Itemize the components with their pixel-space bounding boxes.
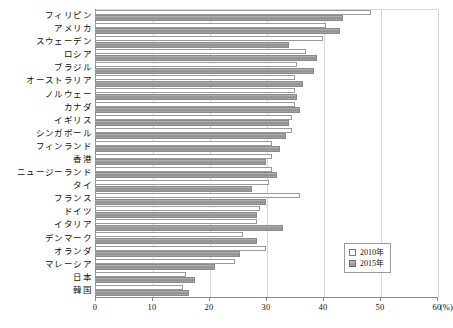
x-tick-label-0: 0	[93, 302, 97, 312]
bar-2015	[95, 133, 286, 139]
x-tick-10	[152, 297, 153, 301]
category-label: オーストラリア	[26, 76, 92, 85]
category-label: ドイツ	[64, 207, 92, 216]
bar-2015	[95, 199, 266, 205]
bar-row: スウェーデン	[0, 35, 443, 48]
bar-row: カナダ	[0, 101, 443, 114]
category-label: カナダ	[64, 103, 92, 112]
bar-2010	[95, 219, 257, 224]
bar-2015	[95, 264, 215, 270]
category-label: ロシア	[64, 50, 92, 59]
bar-row: ドイツ	[0, 205, 443, 218]
bar-2015	[95, 159, 266, 165]
bar-2010	[95, 154, 272, 159]
category-label: ノルウェー	[45, 90, 92, 99]
bar-2015	[95, 172, 277, 178]
bar-2015	[95, 277, 195, 283]
category-label: タイ	[73, 181, 92, 190]
legend-label-2010: 2010年	[360, 247, 384, 258]
category-label: ニュージーランド	[17, 168, 92, 177]
category-label: オランダ	[54, 247, 92, 256]
category-label: フィリピン	[45, 11, 92, 20]
bar-2015	[95, 146, 280, 152]
category-label: アメリカ	[54, 24, 92, 33]
bar-2015	[95, 81, 303, 87]
bar-2010	[95, 10, 371, 15]
bar-2015	[95, 290, 189, 296]
category-label: シンガポール	[36, 129, 92, 138]
bar-2010	[95, 102, 295, 107]
bar-2010	[95, 167, 272, 172]
legend-swatch-2015-icon	[349, 260, 356, 267]
x-tick-60	[437, 297, 438, 301]
bar-row: ブラジル	[0, 61, 443, 74]
bar-2015	[95, 94, 297, 100]
bar-2010	[95, 259, 235, 264]
category-label: フランス	[54, 194, 92, 203]
category-label: ブラジル	[54, 63, 92, 72]
bar-2015	[95, 107, 300, 113]
category-label: フィンランド	[36, 142, 92, 151]
bar-row: シンガポール	[0, 127, 443, 140]
bar-row: イギリス	[0, 114, 443, 127]
bar-2010	[95, 141, 272, 146]
bar-2010	[95, 193, 300, 198]
category-label: マレーシア	[45, 260, 92, 269]
bar-row: ロシア	[0, 48, 443, 61]
bar-row: 香港	[0, 153, 443, 166]
bar-2015	[95, 186, 252, 192]
bar-2010	[95, 180, 269, 185]
bar-row: イタリア	[0, 218, 443, 231]
chart-legend: 2010年 2015年	[344, 243, 391, 273]
bar-2015	[95, 251, 240, 257]
x-tick-50	[380, 297, 381, 301]
bar-2015	[95, 42, 289, 48]
category-label: イタリア	[54, 220, 92, 229]
bar-2015	[95, 68, 314, 74]
bar-2010	[95, 23, 326, 28]
bar-row: フィリピン	[0, 9, 443, 22]
category-label: デンマーク	[45, 234, 92, 243]
bar-2010	[95, 88, 295, 93]
bar-2010	[95, 62, 297, 67]
bar-2010	[95, 246, 266, 251]
x-tick-0	[95, 297, 96, 301]
x-tick-label-20: 20	[205, 302, 214, 312]
x-tick-label-50: 50	[376, 302, 385, 312]
legend-label-2015: 2015年	[360, 258, 384, 269]
bar-2015	[95, 225, 283, 231]
bar-row: ニュージーランド	[0, 166, 443, 179]
bar-2010	[95, 206, 260, 211]
bar-2015	[95, 28, 340, 34]
bar-row: タイ	[0, 179, 443, 192]
bar-2015	[95, 55, 317, 61]
x-tick-30	[266, 297, 267, 301]
x-axis-unit-label: (%)	[440, 302, 453, 312]
x-tick-label-10: 10	[148, 302, 157, 312]
bar-2010	[95, 36, 323, 41]
x-tick-label-40: 40	[319, 302, 328, 312]
category-label: 香港	[73, 155, 92, 164]
bar-row: オーストラリア	[0, 74, 443, 87]
category-label: 日本	[73, 273, 92, 282]
legend-item-2010: 2010年	[349, 247, 384, 258]
bar-2010	[95, 49, 306, 54]
legend-item-2015: 2015年	[349, 258, 384, 269]
bar-2010	[95, 285, 183, 290]
bar-row: ノルウェー	[0, 88, 443, 101]
bar-2010	[95, 115, 292, 120]
bar-2015	[95, 120, 289, 126]
bar-row: 韓国	[0, 284, 443, 297]
bar-row: フィンランド	[0, 140, 443, 153]
category-label: イギリス	[54, 116, 92, 125]
bar-2010	[95, 272, 186, 277]
x-tick-40	[323, 297, 324, 301]
x-tick-20	[209, 297, 210, 301]
bar-2015	[95, 212, 257, 218]
x-tick-label-30: 30	[262, 302, 271, 312]
bar-2010	[95, 128, 292, 133]
category-label: スウェーデン	[36, 37, 92, 46]
bar-row: フランス	[0, 192, 443, 205]
bar-2015	[95, 238, 257, 244]
